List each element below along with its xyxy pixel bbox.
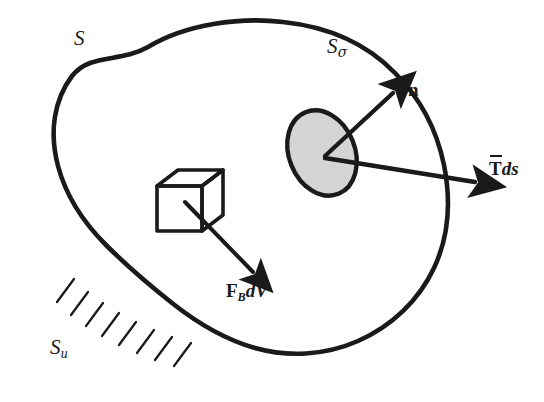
label-displacement-surface: Su: [50, 337, 67, 358]
label-total-surface: S: [74, 28, 85, 49]
body-force-subscript: B: [238, 290, 246, 304]
sigma-subscript: σ: [338, 44, 347, 60]
label-traction-vector: Tds: [489, 159, 519, 178]
traction-overbar-group: T: [489, 159, 502, 178]
continuum-body-diagram: S Sσ Su n FBdV Tds: [0, 0, 544, 402]
label-traction-surface: Sσ: [327, 36, 347, 57]
traction-differential: ds: [502, 158, 519, 179]
label-normal-vector: n: [408, 80, 419, 99]
surface-patch-ellipse: [275, 100, 369, 206]
volume-element-cube: [157, 170, 223, 231]
diagram-canvas: [0, 0, 544, 402]
body-outline-path: [54, 20, 448, 353]
body-force-arrow-line: [185, 202, 253, 272]
fixed-support-hatching: [57, 279, 191, 366]
u-subscript: u: [61, 346, 68, 361]
label-body-force: FBdV: [226, 281, 268, 300]
body-force-differential: dV: [246, 280, 268, 301]
